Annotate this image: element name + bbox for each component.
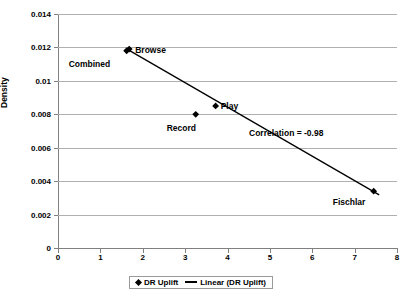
data-point-label: Fischlar	[333, 197, 366, 207]
x-tick-label: 8	[395, 253, 399, 262]
chart-legend: DR UpliftLinear (DR Uplift)	[129, 276, 273, 289]
gridline	[58, 215, 397, 216]
x-tick-label: 7	[352, 253, 356, 262]
x-tick-label: 5	[268, 253, 272, 262]
line-marker-icon	[185, 281, 197, 283]
data-point-marker	[370, 188, 377, 195]
y-tick-mark	[54, 114, 58, 115]
gridline	[58, 181, 397, 182]
x-tick-label: 1	[98, 253, 102, 262]
gridline	[58, 47, 397, 48]
data-point-label: Record	[167, 123, 196, 133]
y-tick-label: 0.008	[0, 110, 51, 119]
diamond-marker-icon	[135, 278, 142, 285]
data-point-label: Browse	[135, 45, 166, 55]
x-tick-label: 6	[310, 253, 314, 262]
data-point-label: Play	[221, 101, 239, 111]
y-tick-mark	[54, 181, 58, 182]
gridline	[58, 114, 397, 115]
y-tick-mark	[54, 47, 58, 48]
y-tick-mark	[54, 81, 58, 82]
data-point-marker	[123, 47, 130, 54]
data-point-label: Combined	[69, 59, 111, 69]
correlation-annotation: Correlation = -0.98	[249, 128, 323, 138]
y-tick-label: 0	[0, 244, 51, 253]
data-point-markers	[123, 46, 377, 195]
y-tick-mark	[54, 14, 58, 15]
data-point-marker	[212, 103, 219, 110]
y-tick-mark	[54, 215, 58, 216]
gridline	[58, 81, 397, 82]
y-tick-label: 0.006	[0, 143, 51, 152]
x-tick-label: 4	[225, 253, 229, 262]
y-axis-title: Density	[0, 77, 9, 108]
legend-label: Linear (DR Uplift)	[200, 278, 266, 287]
x-tick-label: 2	[141, 253, 145, 262]
y-tick-label: 0.012	[0, 43, 51, 52]
y-tick-mark	[54, 148, 58, 149]
y-tick-label: 0.002	[0, 210, 51, 219]
gridline	[58, 148, 397, 149]
gridline	[58, 14, 397, 15]
density-scatter-chart: 00.0020.0040.0060.0080.010.0120.014 0123…	[0, 0, 409, 297]
legend-entry: Linear (DR Uplift)	[185, 278, 266, 287]
y-tick-label: 0.004	[0, 177, 51, 186]
legend-entry: DR Uplift	[136, 278, 178, 287]
y-axis-line	[58, 14, 59, 249]
x-tick-label: 0	[56, 253, 60, 262]
y-tick-label: 0.014	[0, 10, 51, 19]
x-tick-label: 3	[183, 253, 187, 262]
legend-label: DR Uplift	[144, 278, 178, 287]
